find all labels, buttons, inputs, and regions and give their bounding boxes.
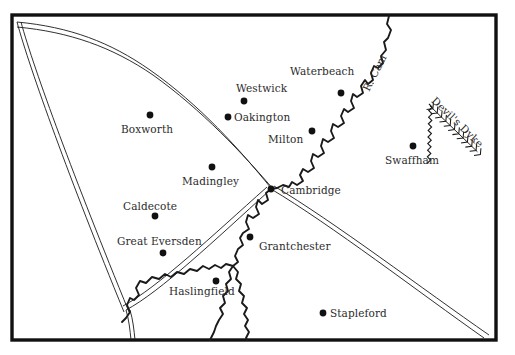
settlement-dot bbox=[241, 98, 248, 105]
settlement-dot bbox=[160, 250, 167, 257]
settlement-dot bbox=[225, 114, 232, 121]
settlement-dot bbox=[268, 186, 275, 193]
settlement-label: Boxworth bbox=[121, 124, 173, 135]
settlement-dot bbox=[410, 143, 417, 150]
settlement-label: Great Eversden bbox=[117, 236, 202, 247]
road-network bbox=[17, 22, 489, 340]
settlement-label: Milton bbox=[268, 134, 303, 145]
settlement-label: Westwick bbox=[236, 83, 287, 94]
road-northwest-to-cambridge bbox=[17, 22, 274, 190]
settlement-dots bbox=[147, 90, 417, 317]
map-figure: BoxworthWestwickWaterbeachOakingtonMilto… bbox=[0, 0, 515, 355]
settlement-label: Madingley bbox=[182, 176, 239, 187]
settlement-dot bbox=[147, 112, 154, 119]
settlement-dot bbox=[247, 234, 254, 241]
settlement-label: Waterbeach bbox=[290, 66, 354, 77]
river-branch-southeast bbox=[233, 266, 249, 340]
settlement-dot bbox=[320, 310, 327, 317]
map-canvas bbox=[0, 0, 515, 355]
river-branch-southeast-b bbox=[210, 266, 233, 340]
settlement-dot bbox=[338, 90, 345, 97]
settlement-dot bbox=[309, 128, 316, 135]
settlement-label: Stapleford bbox=[330, 308, 387, 319]
river-cam-north bbox=[271, 16, 391, 189]
settlement-dot bbox=[152, 213, 159, 220]
settlement-label: Swaffham bbox=[385, 155, 439, 166]
settlement-label: Cambridge bbox=[281, 185, 341, 196]
settlement-label: Haslingfield bbox=[169, 286, 235, 297]
settlement-dot bbox=[209, 164, 216, 171]
road-northwest-to-haslingfield bbox=[17, 22, 129, 312]
settlement-dot bbox=[213, 278, 220, 285]
settlement-label: Caldecote bbox=[123, 201, 177, 212]
settlement-label: Grantchester bbox=[259, 241, 331, 252]
map-frame bbox=[12, 15, 496, 340]
settlement-label: Oakington bbox=[234, 112, 290, 123]
